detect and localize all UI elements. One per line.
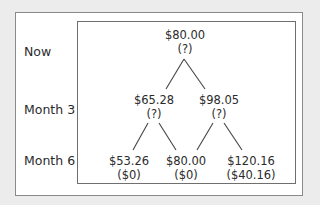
node-price: $98.05	[179, 93, 259, 107]
node-now: $80.00 (?)	[145, 28, 225, 56]
node-price: $120.16	[211, 154, 291, 168]
node-month6-up-up: $120.16 ($40.16)	[211, 154, 291, 182]
node-value: (?)	[179, 107, 259, 121]
edge-up-ud	[197, 123, 213, 150]
node-value: (?)	[145, 42, 225, 56]
edge-down-ud	[159, 123, 176, 150]
node-price: $80.00	[145, 28, 225, 42]
edge-up-uu	[224, 123, 242, 150]
node-value: ($40.16)	[211, 168, 291, 182]
node-month3-up: $98.05 (?)	[179, 93, 259, 121]
edge-root-up	[184, 59, 205, 89]
edge-root-down	[166, 59, 184, 89]
edge-down-dd	[133, 123, 148, 150]
